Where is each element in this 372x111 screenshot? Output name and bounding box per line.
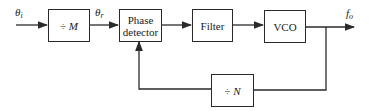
- input-theta-i-label: θi: [15, 6, 23, 20]
- filter-block: Filter: [192, 9, 233, 42]
- output-fo-label: fo: [346, 7, 353, 21]
- reference-theta-r-label: θr: [95, 6, 104, 20]
- divide-by-m-block: ÷ M: [48, 9, 90, 42]
- n-to-pd-arrow: [139, 42, 211, 89]
- phase-detector-block: Phase detector: [119, 9, 162, 42]
- vco-block: VCO: [264, 10, 306, 43]
- divide-by-n-block: ÷ N: [211, 74, 254, 107]
